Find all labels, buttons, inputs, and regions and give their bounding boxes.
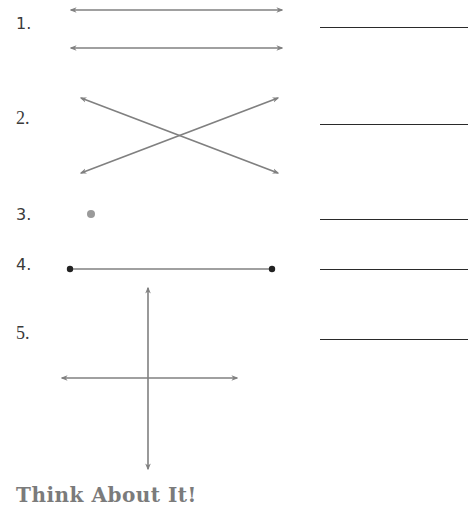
point-figure	[87, 210, 95, 218]
perpendicular-lines-figure	[62, 288, 237, 469]
parallel-lines-figure	[71, 10, 282, 48]
geometry-figures	[0, 0, 468, 515]
line-segment-figure	[67, 266, 275, 272]
endpoint-right	[269, 266, 275, 272]
endpoint-left	[67, 266, 73, 272]
think-about-it-heading: Think About It!	[16, 483, 197, 507]
intersecting-lines-figure	[81, 98, 278, 173]
